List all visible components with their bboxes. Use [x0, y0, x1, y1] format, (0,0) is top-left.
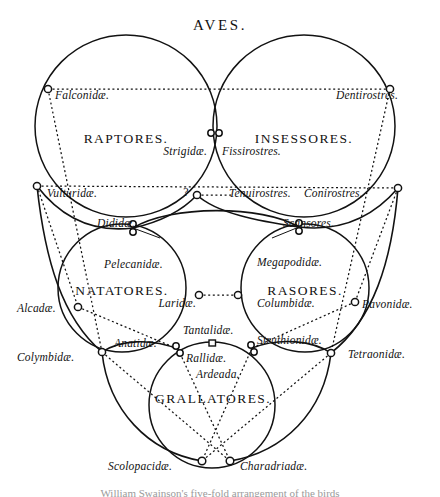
family-label-conirostres: Conirostres.: [304, 188, 363, 200]
dotted-conirostres-to-pavonidae: [355, 188, 398, 302]
family-label-falconidae: Falconidæ.: [55, 90, 109, 102]
dotted-falconidae-to-lower: [48, 89, 102, 352]
family-label-megapodidae: Megapodidæ.: [257, 257, 322, 269]
node-scolopacidae: [198, 457, 206, 465]
node-vulturidae: [33, 182, 40, 189]
aves-diagram-figure: AVES.: [0, 0, 440, 497]
dotted-dentirostres-to-lower: [331, 89, 390, 353]
family-label-tetraonidae: Tetraonidæ.: [348, 349, 405, 361]
node-anatidae-right: [177, 350, 183, 356]
node-alcadae: [74, 303, 81, 310]
uncertainty-question-mark: ?: [183, 186, 188, 198]
family-label-dididae: Dididæ.: [97, 218, 135, 230]
family-label-colymbidae: Colymbidæ.: [17, 352, 74, 364]
family-label-scansores: Scansores.: [283, 218, 334, 230]
node-tetraonidae: [327, 349, 334, 356]
family-label-scolopacidae: Scolopacidæ.: [108, 461, 172, 473]
family-label-charadriadae: Charadriadæ.: [240, 461, 307, 473]
node-tantalidae-square: [209, 340, 216, 346]
node-conirostres: [394, 184, 401, 191]
family-label-fissirostres: Fissirostres.: [222, 146, 281, 158]
node-tenuirostres: [193, 191, 200, 198]
order-label-grallatores: GRALLATORES.: [155, 392, 271, 406]
family-label-tenuirostres: Tenuirostres.: [229, 188, 291, 200]
arc-left-lower: [102, 352, 202, 461]
node-anatidae-left: [173, 343, 179, 349]
family-label-rallidae: Rallidæ.: [186, 353, 226, 365]
node-charadriadae: [226, 457, 234, 465]
order-label-raptores: RAPTORES.: [84, 132, 169, 146]
node-falconidae: [44, 85, 51, 92]
family-label-pelecanidae: Pelecanidæ.: [104, 259, 163, 271]
order-label-natatores: NATATORES.: [75, 284, 168, 298]
node-dididae-lower: [130, 229, 136, 235]
node-columbidae: [234, 291, 241, 298]
family-label-struthionidae: Struthionidæ.: [257, 335, 322, 347]
family-label-strigidae: Strigidæ.: [163, 146, 207, 158]
arc-right-lower: [230, 353, 331, 461]
arc-dididae-to-scansores: [133, 211, 299, 228]
family-label-laridae: Laridæ.: [158, 298, 196, 310]
family-label-columbidae: Columbidæ.: [257, 298, 315, 310]
diagram-canvas: [0, 0, 440, 497]
family-label-pavonidae: Pavonidæ.: [362, 299, 413, 311]
family-label-vulturidae: Vulturidæ.: [47, 188, 97, 200]
node-strigidae: [208, 130, 214, 136]
family-label-dentirostres: Dentirostres.: [336, 90, 398, 102]
family-label-tantalidae: Tantalidæ.: [183, 325, 233, 337]
node-struthionidae-left: [248, 342, 254, 348]
family-label-ardeada: Ardeada.: [196, 369, 240, 381]
order-label-rasores: RASORES.: [267, 284, 342, 298]
family-label-anatidae: Anatidæ.: [114, 338, 157, 350]
node-colymbidae: [98, 348, 105, 355]
node-fissirostres: [216, 130, 222, 136]
order-label-insessores: INSESSORES.: [255, 132, 353, 146]
arc-right-outer: [331, 188, 398, 353]
cropped-caption-sliver: William Swainson's five-fold arrangement…: [0, 487, 440, 497]
node-struthionidae-right: [251, 349, 257, 355]
node-pavonidae: [351, 298, 358, 305]
family-label-alcadae: Alcadæ.: [17, 303, 56, 315]
